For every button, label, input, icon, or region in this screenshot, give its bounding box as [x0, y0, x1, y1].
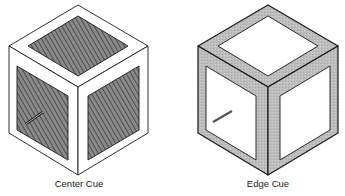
- cube-diagrams: [0, 0, 345, 196]
- edge-cue-cube: [198, 5, 338, 175]
- center-cue-cube: [9, 5, 148, 175]
- center-cue-caption: Center Cue: [55, 178, 104, 189]
- edge-cue-caption: Edge Cue: [247, 178, 289, 189]
